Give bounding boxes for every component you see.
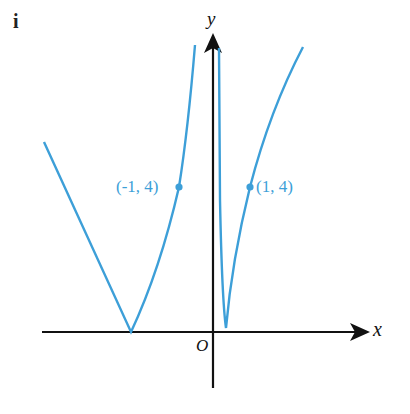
point-1-4 (246, 183, 253, 190)
x-axis-label: x (373, 318, 382, 341)
annotation-1-4: (1, 4) (256, 177, 293, 197)
annotation-neg1-4: (-1, 4) (116, 177, 158, 197)
y-axis-label: y (207, 8, 215, 30)
origin-label: O (196, 336, 208, 356)
point-neg1-4 (175, 183, 182, 190)
